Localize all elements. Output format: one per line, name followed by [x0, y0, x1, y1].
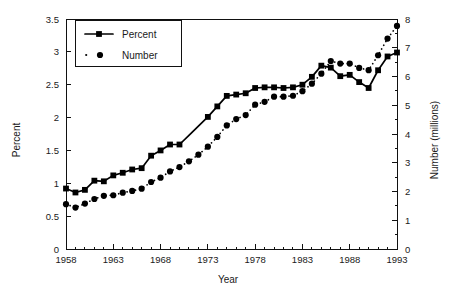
data-point-number	[318, 71, 324, 77]
data-point-number	[148, 179, 154, 185]
data-point-number	[280, 94, 286, 100]
y-tick-label: 1	[54, 178, 59, 189]
data-point-percent	[375, 67, 381, 73]
y-tick-label: 3.5	[46, 14, 59, 25]
y-tick-label: 3	[54, 46, 59, 57]
y-tick-label: 2.5	[46, 79, 59, 90]
y2-tick-label: 5	[405, 100, 410, 111]
data-point-number	[252, 102, 258, 108]
data-point-number	[337, 60, 343, 66]
y2-tick-label: 4	[405, 129, 410, 140]
y2-tick-label: 1	[405, 215, 410, 226]
data-point-number	[205, 144, 211, 150]
data-point-number	[375, 52, 381, 58]
x-tick-label: 1973	[197, 254, 218, 265]
data-point-number	[186, 158, 192, 164]
data-point-percent	[300, 82, 306, 88]
y-tick-label: 0	[54, 244, 59, 255]
legend-dot-number	[85, 54, 87, 56]
x-axis-title: Year	[218, 274, 239, 285]
data-point-percent	[337, 73, 343, 79]
data-point-percent	[366, 85, 372, 91]
y2-tick-label: 2	[405, 186, 410, 197]
data-point-number	[233, 116, 239, 122]
y-tick-label: 1.5	[46, 145, 59, 156]
data-point-number	[356, 65, 362, 71]
data-point-percent	[167, 142, 173, 148]
legend-label-percent: Percent	[122, 29, 157, 40]
data-point-number	[176, 164, 182, 170]
y2-axis-title: Number (millions)	[429, 101, 440, 179]
data-point-percent	[158, 148, 164, 154]
data-point-number	[309, 81, 315, 87]
y-tick-label: 2	[54, 112, 59, 123]
y2-tick-label: 3	[405, 157, 410, 168]
data-point-percent	[328, 65, 334, 71]
data-point-number	[129, 188, 135, 194]
y2-tick-label: 6	[405, 71, 410, 82]
chart-legend: PercentNumber	[75, 20, 181, 66]
data-point-percent	[318, 63, 324, 69]
x-tick-label: 1978	[245, 254, 266, 265]
data-point-percent	[233, 92, 239, 98]
data-point-percent	[356, 79, 362, 85]
data-point-percent	[271, 84, 277, 90]
x-tick-label: 1963	[103, 254, 124, 265]
data-point-percent	[82, 187, 88, 193]
data-point-percent	[394, 50, 400, 56]
data-point-number	[157, 175, 163, 181]
chart-figure: 19581963196819731978198319881993 00.511.…	[0, 0, 457, 295]
data-point-number	[299, 88, 305, 94]
x-tick-label: 1993	[386, 254, 407, 265]
data-point-number	[63, 201, 69, 207]
y-axis-title: Percent	[11, 123, 22, 158]
data-point-percent	[63, 186, 69, 192]
data-point-number	[139, 186, 145, 192]
x-tick-label: 1983	[292, 254, 313, 265]
data-point-number	[101, 193, 107, 199]
data-point-percent	[224, 93, 230, 99]
data-point-number	[91, 196, 97, 202]
data-point-number	[167, 168, 173, 174]
x-tick-label: 1968	[150, 254, 171, 265]
data-point-number	[271, 94, 277, 100]
chart-background	[0, 0, 457, 295]
data-point-number	[120, 190, 126, 196]
data-point-percent	[91, 178, 97, 184]
data-point-percent	[120, 170, 126, 176]
data-point-percent	[347, 72, 353, 78]
data-point-percent	[139, 165, 145, 171]
data-point-number	[384, 35, 390, 41]
y2-tick-label: 7	[405, 42, 410, 53]
legend-marker-number	[97, 52, 103, 58]
data-point-number	[195, 152, 201, 158]
data-point-percent	[309, 74, 315, 80]
data-point-percent	[290, 84, 296, 90]
data-point-percent	[281, 85, 287, 91]
x-tick-label: 1958	[55, 254, 76, 265]
data-point-number	[82, 200, 88, 206]
data-point-percent	[148, 153, 154, 159]
data-point-number	[224, 122, 230, 128]
y2-tick-label: 8	[405, 14, 410, 25]
data-point-number	[243, 112, 249, 118]
data-point-number	[72, 205, 78, 211]
data-point-percent	[101, 178, 107, 184]
data-point-percent	[110, 173, 116, 179]
data-point-percent	[205, 114, 211, 120]
data-point-number	[347, 60, 353, 66]
data-point-percent	[385, 54, 391, 60]
data-point-percent	[262, 84, 268, 90]
data-point-number	[328, 58, 334, 64]
data-point-number	[214, 134, 220, 140]
y2-axis-tick-labels: 012345678	[405, 14, 410, 255]
data-point-percent	[214, 104, 220, 110]
data-point-number	[394, 23, 400, 29]
data-point-number	[110, 192, 116, 198]
line-chart: 19581963196819731978198319881993 00.511.…	[0, 0, 457, 295]
y-tick-label: 0.5	[46, 211, 59, 222]
data-point-percent	[177, 142, 183, 148]
legend-label-number: Number	[122, 50, 158, 61]
data-point-number	[290, 93, 296, 99]
data-point-number	[366, 67, 372, 73]
